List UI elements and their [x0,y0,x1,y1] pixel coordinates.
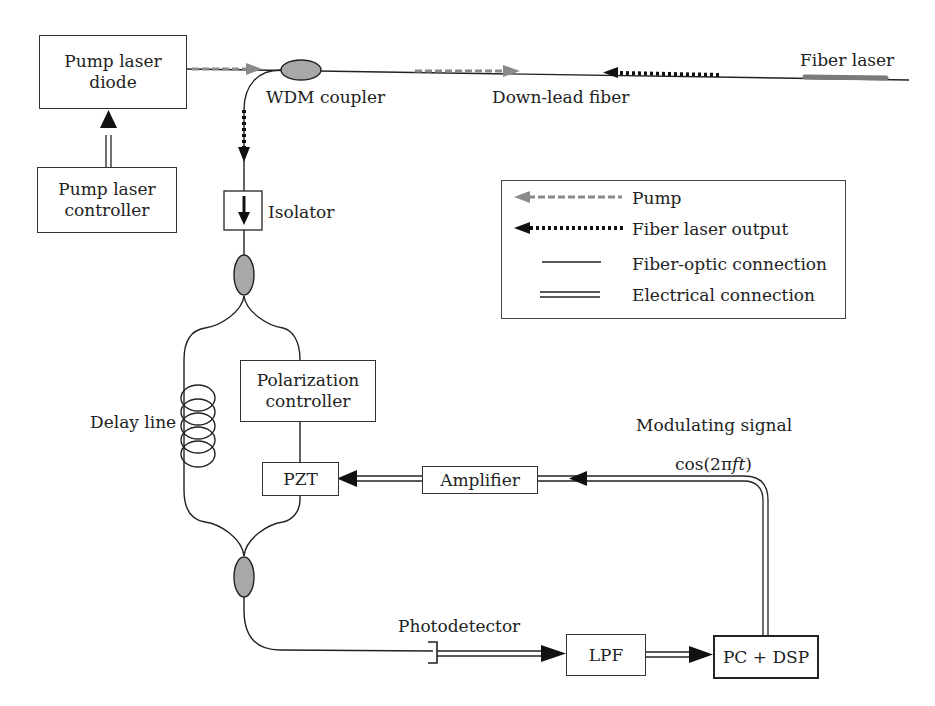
electrical-amplifier-to-pzt [337,470,422,487]
formula-suffix: ) [745,454,752,474]
lower-coupler-ellipse [234,557,254,597]
legend: Pump Fiber laser output Fiber-optic conn… [501,180,846,319]
pump-laser-controller-box: Pump laser controller [37,167,177,233]
legend-item-fiber-optic: Fiber-optic connection [502,253,845,277]
formula-prefix: cos(2π [675,454,732,474]
pump-laser-diode-box: Pump laser diode [39,35,187,109]
wdm-coupler-ellipse [281,60,321,80]
isolator-label: Isolator [268,202,334,222]
legend-item-pump: Pump [502,187,845,211]
legend-label: Electrical connection [632,284,815,306]
pzt-box: PZT [262,462,339,496]
pump-arrow-diode-to-wdm [192,63,262,75]
modulating-formula: cos(2πft) [675,454,752,474]
modulating-signal-label: Modulating signal [636,415,792,435]
electrical-lpf-to-pcdsp [645,646,713,663]
photodetector-symbol [428,642,437,663]
legend-item-fiber-laser-output: Fiber laser output [502,218,845,242]
wdm-coupler-label: WDM coupler [266,87,385,107]
lpf-box: LPF [566,634,646,676]
fiber-laser-label: Fiber laser [800,50,894,70]
amplifier-box: Amplifier [422,466,538,494]
legend-item-electrical: Electrical connection [502,284,845,308]
pump-arrow-down-lead [415,65,520,77]
photodetector-label: Photodetector [398,616,520,636]
pc-dsp-box: PC + DSP [713,635,819,679]
electrical-photodetector-to-lpf [437,645,566,662]
electrical-pcdsp-to-amplifier [512,476,768,635]
down-lead-fiber-label: Down-lead fiber [492,87,629,107]
delay-line-coil [181,385,215,467]
interferometer-arms [184,296,300,556]
polarization-controller-box: Polarization controller [240,360,376,422]
legend-label: Pump [632,187,681,209]
upper-coupler-ellipse [234,255,254,295]
fiber-laser-element [805,77,886,78]
formula-variable: ft [732,454,745,474]
legend-label: Fiber-optic connection [632,253,827,275]
isolator-box [224,191,262,230]
delay-line-label: Delay line [90,412,176,432]
legend-label: Fiber laser output [632,218,788,240]
electrical-controller-to-diode [100,110,117,168]
